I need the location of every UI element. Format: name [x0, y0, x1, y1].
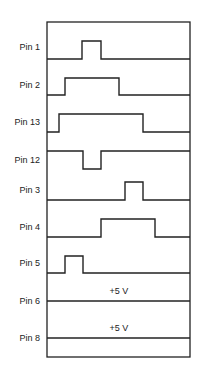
signal-pin-1: Pin 1	[19, 41, 190, 59]
pin-label: Pin 3	[19, 185, 40, 195]
pin-label: Pin 6	[19, 296, 40, 306]
voltage-annotation: +5 V	[110, 323, 129, 333]
timing-diagram: Pin 1 Pin 2 Pin 13 Pin 12 Pin 3 Pin 4 Pi…	[0, 0, 202, 375]
waveform	[47, 114, 190, 132]
signal-pin-6: Pin 6 +5 V	[19, 286, 190, 306]
signal-pin-8: Pin 8 +5 V	[19, 323, 190, 343]
signal-pin-2: Pin 2	[19, 78, 190, 95]
signal-pin-5: Pin 5	[19, 256, 190, 273]
pin-label: Pin 13	[14, 117, 40, 127]
pin-label: Pin 8	[19, 333, 40, 343]
waveform	[47, 78, 190, 95]
waveform	[47, 256, 190, 273]
pin-label: Pin 1	[19, 42, 40, 52]
pin-label: Pin 12	[14, 155, 40, 165]
signal-pin-12: Pin 12	[14, 151, 190, 169]
pin-label: Pin 5	[19, 258, 40, 268]
waveform	[47, 182, 190, 200]
voltage-annotation: +5 V	[110, 286, 129, 296]
waveform	[47, 41, 190, 59]
diagram-frame	[47, 22, 190, 357]
signal-pin-3: Pin 3	[19, 182, 190, 200]
signal-pin-13: Pin 13	[14, 114, 190, 132]
signal-pin-4: Pin 4	[19, 219, 190, 237]
pin-label: Pin 2	[19, 80, 40, 90]
waveform	[47, 219, 190, 237]
waveform	[47, 151, 190, 169]
pin-label: Pin 4	[19, 222, 40, 232]
